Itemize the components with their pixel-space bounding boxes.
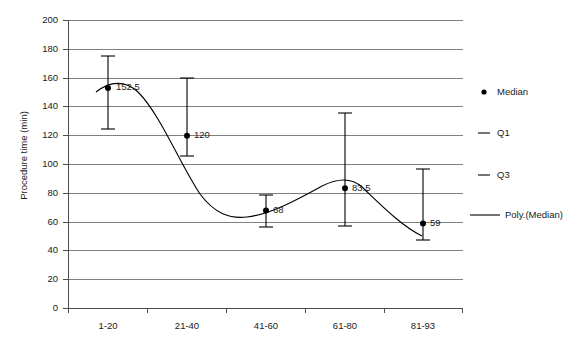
y-axis-ticks [63, 21, 68, 309]
x-tick-label-21-40: 21-40 [152, 320, 222, 331]
chart-plot-area [0, 0, 567, 344]
chart-container: Procedure time (min) 200 180 160 140 120… [0, 0, 567, 344]
legend-item-q1[interactable]: Q1 [497, 127, 510, 138]
y-tick-label-80: 80 [18, 187, 58, 198]
error-bar-1-20 [101, 56, 115, 129]
legend-item-q3[interactable]: Q3 [497, 169, 510, 180]
y-tick-label-20: 20 [18, 273, 58, 284]
y-tick-label-200: 200 [18, 14, 58, 25]
median-point-41-60 [263, 208, 269, 214]
y-tick-label-160: 160 [18, 72, 58, 83]
error-bar-21-40 [180, 78, 194, 156]
y-tick-label-120: 120 [18, 129, 58, 140]
data-label-61-80: 83.5 [352, 182, 371, 193]
y-tick-label-40: 40 [18, 244, 58, 255]
y-tick-label-100: 100 [18, 158, 58, 169]
x-tick-label-1-20: 1-20 [73, 320, 143, 331]
median-point-1-20 [105, 85, 111, 91]
data-label-21-40: 120 [194, 129, 210, 140]
y-tick-label-140: 140 [18, 100, 58, 111]
x-tick-label-41-60: 41-60 [231, 320, 301, 331]
poly-median-trendline [96, 83, 422, 236]
y-tick-label-180: 180 [18, 43, 58, 54]
error-bar-81-93 [416, 169, 430, 240]
median-point-61-80 [342, 185, 348, 191]
x-tick-label-81-93: 81-93 [388, 320, 458, 331]
legend-marker-median [481, 89, 486, 94]
error-bar-61-80 [338, 113, 352, 226]
x-tick-label-61-80: 61-80 [310, 320, 380, 331]
y-tick-label-0: 0 [18, 302, 58, 313]
median-point-21-40 [184, 133, 190, 139]
gridlines-horizontal [68, 21, 463, 280]
data-label-41-60: 68 [273, 204, 284, 215]
legend-item-poly-median[interactable]: Poly.(Median) [505, 209, 563, 220]
legend-item-median[interactable]: Median [497, 86, 528, 97]
data-label-1-20: 152.5 [116, 81, 140, 92]
data-label-81-93: 59 [430, 217, 441, 228]
median-point-81-93 [420, 221, 426, 227]
y-tick-label-60: 60 [18, 216, 58, 227]
legend-markers [470, 89, 500, 215]
